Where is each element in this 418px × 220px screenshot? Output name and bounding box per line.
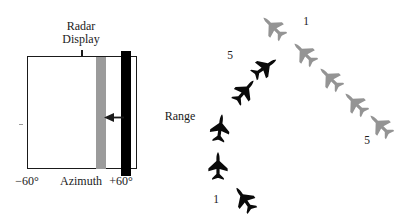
gray-formation-number-label: 5: [364, 135, 370, 147]
range-label: Range: [165, 110, 196, 122]
azimuth-zero-tick: [81, 50, 83, 57]
radar-display-title-line2: Display: [41, 33, 121, 46]
leftward-arrow-icon: [103, 111, 125, 124]
gray-formation-aircraft-icon-1: [256, 10, 293, 47]
black-formation-number-label: 5: [227, 50, 233, 62]
azimuth-axis-label: Azimuth: [60, 175, 102, 187]
gray-formation-number-label: 1: [303, 16, 309, 28]
range-mid-tick: [19, 124, 23, 125]
black-formation-aircraft-icon-3: [207, 113, 233, 146]
gray-formation-aircraft-icon-2: [287, 36, 324, 73]
radar-display-title: Radar Display: [41, 20, 121, 46]
azimuth-min-label: −60°: [15, 175, 39, 187]
figure-canvas: Radar Display −60° Azimuth +60° Range 15…: [0, 0, 418, 220]
gray-formation-aircraft-icon-3: [313, 61, 350, 98]
black-formation-aircraft-icon-1: [227, 181, 262, 218]
azimuth-max-label: +60°: [109, 175, 133, 187]
black-formation-aircraft-icon-2: [207, 152, 229, 182]
black-formation-number-label: 1: [213, 194, 219, 206]
